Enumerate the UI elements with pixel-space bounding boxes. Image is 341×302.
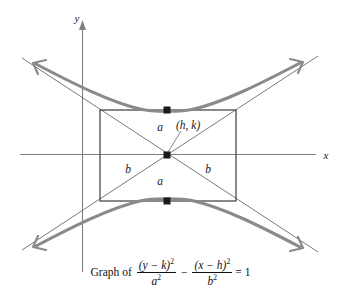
y-axis-label: y	[74, 12, 80, 24]
fraction-first-numerator-base: (y − k)	[139, 259, 170, 271]
fraction-first: (y − k)2 a2	[137, 258, 176, 287]
caption-right-side-value: 1	[245, 267, 251, 279]
figure-caption: Graph of (y − k)2 a2 − (x − h)2 b2 = 1	[0, 258, 341, 287]
x-axis-label: x	[323, 149, 329, 161]
fraction-first-numerator-exponent: 2	[170, 257, 174, 266]
fraction-second-numerator-exponent: 2	[226, 257, 230, 266]
caption-lead-text: Graph of	[91, 267, 134, 279]
axes-group	[20, 20, 316, 272]
point-markers	[164, 107, 171, 205]
fraction-second-denominator-exponent: 2	[213, 273, 217, 282]
center-label-leader-line	[168, 131, 181, 152]
fraction-first-denominator-exponent: 2	[157, 273, 161, 282]
upper-vertex-marker	[164, 107, 171, 114]
fraction-second-numerator: (x − h)2	[192, 258, 232, 272]
upper-branch-curve	[36, 63, 300, 111]
y-axis-arrowhead	[79, 20, 86, 30]
fraction-first-numerator: (y − k)2	[137, 258, 176, 272]
caption-minus-operator: −	[179, 267, 190, 279]
label-b-right: b	[205, 163, 211, 175]
label-a-top: a	[157, 121, 163, 133]
lower-vertex-marker	[164, 198, 171, 205]
fraction-second: (x − h)2 b2	[192, 258, 232, 287]
fraction-second-denominator: b2	[192, 272, 232, 287]
fraction-first-denominator: a2	[137, 272, 176, 287]
lower-branch-curve	[36, 199, 300, 247]
label-b-left: b	[125, 163, 131, 175]
fraction-second-numerator-base: (x − h)	[194, 259, 226, 271]
caption-equals-sign: =	[235, 267, 242, 279]
center-marker	[164, 152, 171, 159]
center-coordinates-label: (h, k)	[176, 119, 200, 132]
caption-row: Graph of (y − k)2 a2 − (x − h)2 b2 = 1	[91, 258, 251, 287]
label-a-bottom: a	[157, 175, 163, 187]
